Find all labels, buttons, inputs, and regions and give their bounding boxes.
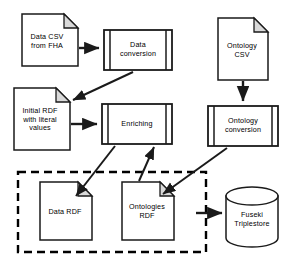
- node-enriching: [102, 104, 172, 144]
- node-data-rdf: [40, 182, 92, 240]
- node-data-conversion: [104, 30, 172, 70]
- node-ontology-csv: [218, 18, 268, 80]
- node-data-csv: [22, 14, 78, 66]
- node-ontology-conversion: [208, 106, 278, 146]
- node-fuseki-triplestore: [226, 187, 278, 247]
- edge-conversion-to-initial-rdf: [73, 72, 133, 100]
- edge-ontologies-rdf-to-enriching: [139, 147, 154, 181]
- node-initial-rdf: [14, 88, 70, 150]
- diagram-canvas: Data CSV from FHA Data conversion Ontolo…: [0, 0, 289, 268]
- edge-ontology-conversion-to-ontologies-rdf: [163, 148, 227, 194]
- diagram-svg: [0, 0, 289, 268]
